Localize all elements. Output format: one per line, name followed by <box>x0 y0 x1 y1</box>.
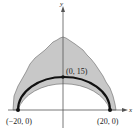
x-axis-label: x <box>128 106 133 114</box>
point-left <box>16 108 20 112</box>
x-axis-arrow-icon <box>122 108 128 112</box>
point-right <box>108 108 112 112</box>
arch-diagram: y x (0, 15) (−20, 0) (20, 0) <box>0 0 135 134</box>
apex-label: (0, 15) <box>66 67 88 76</box>
point-apex <box>61 75 65 79</box>
left-point-label: (−20, 0) <box>6 117 32 126</box>
shaded-region <box>13 37 116 110</box>
right-point-label: (20, 0) <box>97 117 119 126</box>
